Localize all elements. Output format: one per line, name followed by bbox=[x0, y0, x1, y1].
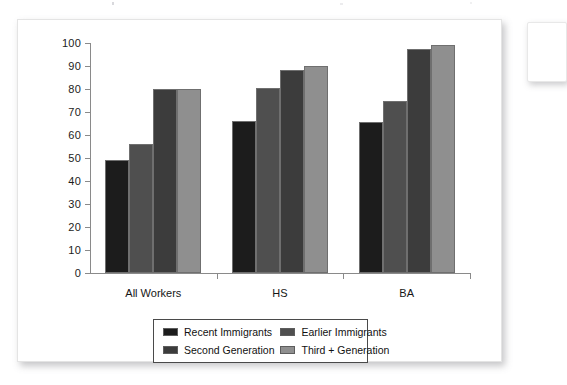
y-tick-80 bbox=[85, 89, 90, 90]
y-tick-10 bbox=[85, 250, 90, 251]
scan-artifacts bbox=[40, 2, 500, 8]
y-tick-label-40: 40 bbox=[68, 175, 81, 187]
x-axis-label-hs: HS bbox=[272, 287, 287, 299]
bar bbox=[359, 122, 383, 273]
x-axis-label-ba: BA bbox=[399, 287, 414, 299]
bar bbox=[383, 101, 407, 274]
bar bbox=[256, 88, 280, 273]
legend-label-third-plus-generation: Third + Generation bbox=[301, 345, 389, 356]
y-tick-label-20: 20 bbox=[68, 221, 81, 233]
y-tick-label-30: 30 bbox=[68, 198, 81, 210]
figure-card: 0102030405060708090100 All WorkersHSBA R… bbox=[17, 19, 502, 362]
adjacent-page-card bbox=[527, 22, 567, 82]
legend-item-third-plus-generation: Third + Generation bbox=[280, 343, 389, 358]
y-tick-20 bbox=[85, 227, 90, 228]
x-tick bbox=[343, 273, 344, 279]
bar bbox=[153, 89, 177, 273]
bar-group-all-workers bbox=[105, 43, 201, 273]
y-tick-0 bbox=[85, 273, 90, 274]
bar-chart: 0102030405060708090100 All WorkersHSBA bbox=[18, 20, 503, 363]
bar bbox=[280, 70, 304, 273]
bar-group-ba bbox=[359, 43, 455, 273]
x-axis-line bbox=[90, 273, 471, 274]
bar bbox=[105, 160, 129, 273]
x-axis-label-all-workers: All Workers bbox=[125, 287, 181, 299]
y-tick-label-80: 80 bbox=[68, 83, 81, 95]
y-tick-label-70: 70 bbox=[68, 106, 81, 118]
x-tick bbox=[470, 273, 471, 279]
chart-legend: Recent Immigrants Earlier Immigrants Sec… bbox=[153, 319, 368, 363]
legend-label-second-generation: Second Generation bbox=[184, 345, 274, 356]
legend-item-recent-immigrants: Recent Immigrants bbox=[163, 325, 274, 340]
legend-swatch-earlier-immigrants bbox=[280, 328, 295, 336]
y-tick-70 bbox=[85, 112, 90, 113]
y-tick-label-10: 10 bbox=[68, 244, 81, 256]
y-tick-90 bbox=[85, 66, 90, 67]
legend-item-second-generation: Second Generation bbox=[163, 343, 274, 358]
legend-label-earlier-immigrants: Earlier Immigrants bbox=[301, 327, 386, 338]
bar bbox=[232, 121, 256, 273]
y-tick-label-90: 90 bbox=[68, 60, 81, 72]
plot-area: 0102030405060708090100 All WorkersHSBA bbox=[90, 43, 470, 273]
y-tick-50 bbox=[85, 158, 90, 159]
bar bbox=[407, 49, 431, 273]
y-tick-60 bbox=[85, 135, 90, 136]
y-tick-30 bbox=[85, 204, 90, 205]
legend-label-recent-immigrants: Recent Immigrants bbox=[184, 327, 272, 338]
y-tick-100 bbox=[85, 43, 90, 44]
bar bbox=[431, 45, 455, 273]
x-tick bbox=[217, 273, 218, 279]
y-tick-label-60: 60 bbox=[68, 129, 81, 141]
bar bbox=[177, 89, 201, 273]
y-tick-label-0: 0 bbox=[75, 267, 81, 279]
bar bbox=[129, 144, 153, 273]
y-tick-label-100: 100 bbox=[62, 37, 81, 49]
legend-swatch-third-plus-generation bbox=[280, 346, 295, 354]
legend-swatch-second-generation bbox=[163, 346, 178, 354]
bar bbox=[304, 66, 328, 273]
bar-group-hs bbox=[232, 43, 328, 273]
legend-item-earlier-immigrants: Earlier Immigrants bbox=[280, 325, 389, 340]
legend-swatch-recent-immigrants bbox=[163, 328, 178, 336]
y-axis-line bbox=[90, 43, 91, 274]
y-tick-label-50: 50 bbox=[68, 152, 81, 164]
y-tick-40 bbox=[85, 181, 90, 182]
